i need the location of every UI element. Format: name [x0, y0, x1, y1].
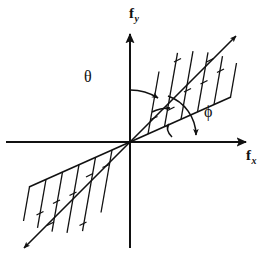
theta-angle-indicator — [130, 90, 158, 98]
diagram-svg — [0, 0, 274, 265]
hatch-barb — [201, 81, 208, 85]
hatch-line — [148, 72, 159, 135]
phi-angle-label: ϕ — [204, 104, 212, 120]
cone-upper-boundary-q1 — [130, 36, 236, 142]
hatch-lines-q3 — [24, 150, 113, 233]
y-axis-label-base: f — [129, 5, 134, 21]
figure-canvas: fy fx θ ϕ — [0, 0, 274, 265]
hatch-barb — [174, 59, 181, 63]
cone-upper-boundary-q3 — [24, 142, 130, 248]
lower-boundary-pointer — [168, 124, 172, 137]
x-axis-label-base: f — [246, 147, 251, 163]
hatch-line — [67, 165, 79, 233]
hatch-line — [165, 53, 178, 127]
theta-angle-label: θ — [84, 69, 92, 85]
y-axis-label-subscript: y — [135, 13, 139, 24]
y-axis-label: fy — [129, 6, 139, 24]
hatch-barb — [70, 192, 77, 196]
hatch-line — [214, 56, 223, 104]
theta-arc — [130, 90, 158, 98]
lower-left-wedge — [24, 142, 131, 248]
x-axis-label: fx — [246, 148, 257, 166]
hatch-lines-q1 — [148, 51, 237, 134]
lower-boundary-arc — [168, 124, 172, 137]
cone-lower-boundary-q3 — [29, 142, 130, 187]
hatch-barb — [184, 89, 191, 93]
hatch-line — [231, 63, 237, 97]
hatch-line — [24, 187, 30, 221]
hatch-line — [38, 180, 47, 228]
upper-right-wedge — [130, 36, 237, 142]
hatch-line — [101, 150, 112, 213]
hatch-line — [83, 157, 96, 231]
x-axis-label-subscript: x — [252, 155, 257, 166]
axis-group — [6, 34, 246, 248]
